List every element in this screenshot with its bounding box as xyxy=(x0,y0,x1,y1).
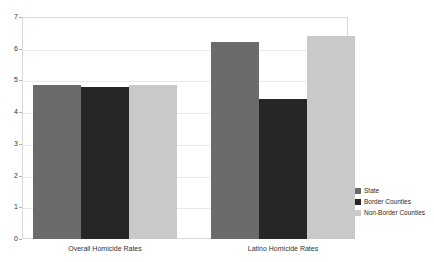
legend-swatch-icon xyxy=(355,210,361,216)
x-axis-category-label: Overall Homicide Rates xyxy=(45,245,165,253)
bar xyxy=(259,99,307,239)
bar xyxy=(211,42,259,239)
bar xyxy=(129,85,177,239)
y-tick-label: 2 xyxy=(4,172,18,179)
bar xyxy=(307,36,355,239)
legend-swatch-icon xyxy=(355,188,361,194)
y-tick-label: 3 xyxy=(4,140,18,147)
y-tick-mark xyxy=(19,239,22,240)
y-tick-mark xyxy=(19,176,22,177)
y-axis: 76543210 xyxy=(0,17,18,239)
y-tick-label: 5 xyxy=(4,76,18,83)
y-tick-label: 7 xyxy=(4,13,18,20)
legend-item[interactable]: Non-Border Counties xyxy=(355,208,425,217)
bar xyxy=(81,87,129,239)
y-tick-label: 6 xyxy=(4,45,18,52)
bars-layer xyxy=(22,17,348,239)
legend-item[interactable]: Border Counties xyxy=(355,197,425,206)
y-tick-label: 4 xyxy=(4,108,18,115)
legend-item-label: Non-Border Counties xyxy=(364,209,425,216)
y-tick-label: 1 xyxy=(4,203,18,210)
y-tick-mark xyxy=(19,80,22,81)
bar xyxy=(33,85,81,239)
legend-swatch-icon xyxy=(355,199,361,205)
y-tick-mark xyxy=(19,144,22,145)
y-tick-label: 0 xyxy=(4,235,18,242)
x-axis-category-label: Latino Homicide Rates xyxy=(223,245,343,253)
y-tick-mark xyxy=(19,207,22,208)
legend-item-label: Border Counties xyxy=(364,198,411,205)
legend-item-label: State xyxy=(364,187,379,194)
y-tick-mark xyxy=(19,49,22,50)
y-tick-mark xyxy=(19,17,22,18)
y-tick-mark xyxy=(19,112,22,113)
legend: StateBorder CountiesNon-Border Counties xyxy=(355,186,425,219)
legend-item[interactable]: State xyxy=(355,186,425,195)
grouped-bar-chart: 76543210 Overall Homicide RatesLatino Ho… xyxy=(0,0,434,262)
